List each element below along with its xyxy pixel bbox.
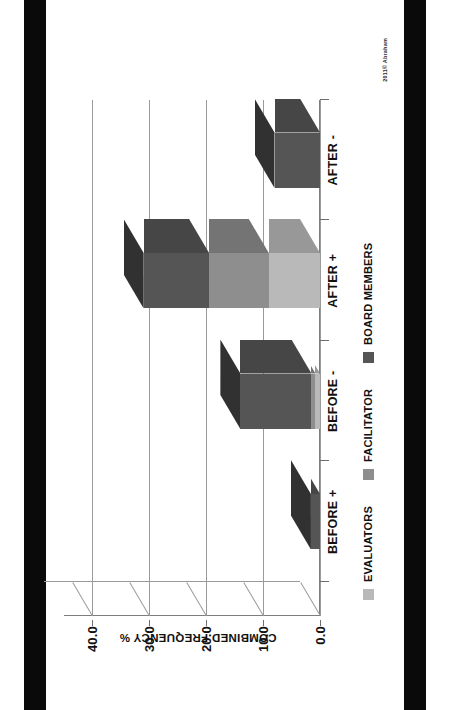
legend-item-evaluators[interactable]: EVALUATORS <box>362 506 374 600</box>
gridline <box>149 100 150 616</box>
bar-face-top <box>255 99 275 188</box>
legend-item-board-members[interactable]: BOARD MEMBERS <box>362 243 374 363</box>
value-tick-mark <box>206 620 207 626</box>
bar-after[interactable] <box>275 133 321 188</box>
bar-face-top <box>291 460 311 549</box>
category-label-before: BEFORE - <box>326 371 340 432</box>
legend-item-facilitator[interactable]: FACILITATOR <box>362 389 374 480</box>
bar-face-front <box>311 374 315 429</box>
legend-label: EVALUATORS <box>362 506 374 582</box>
value-tick-mark <box>320 620 321 626</box>
bar-segment-board-members[interactable] <box>240 374 311 429</box>
gridline-depth <box>186 582 207 616</box>
gridline <box>320 100 321 616</box>
value-tick-mark <box>149 620 150 626</box>
bar-face-front <box>269 253 320 308</box>
scan-band-left <box>24 0 46 710</box>
bar-segment-facilitator[interactable] <box>209 253 269 308</box>
bar-face-front <box>240 374 311 429</box>
legend-swatch-icon <box>363 352 374 363</box>
bar-segment-board-members[interactable] <box>311 494 320 549</box>
scanned-page: 0.010.020.030.040.0 COMBINED FREQUENCY %… <box>0 0 450 710</box>
bar-face-side <box>240 340 311 374</box>
bar-face-top <box>220 340 240 429</box>
scan-band-right <box>404 0 426 710</box>
bar-face-front <box>311 494 320 549</box>
gridline-depth <box>129 582 150 616</box>
value-tick-label: 0.0 <box>314 626 327 645</box>
bar-face-top <box>124 219 144 308</box>
value-axis: 0.010.020.030.040.0 <box>64 620 320 686</box>
bar-segment-board-members[interactable] <box>275 133 321 188</box>
value-tick-mark <box>92 620 93 626</box>
bar-face-side <box>144 219 209 253</box>
category-label-before: BEFORE + <box>326 490 340 554</box>
legend-swatch-icon <box>363 589 374 600</box>
value-tick-label: 40.0 <box>86 626 99 652</box>
bar-segment-board-members[interactable] <box>144 253 209 308</box>
category-axis-labels: BEFORE +BEFORE -AFTER +AFTER - <box>326 100 348 616</box>
gridline <box>92 100 93 616</box>
bar-face-side <box>275 99 321 133</box>
bar-face-front <box>144 253 209 308</box>
back-wall-axis <box>44 581 300 582</box>
bar-after[interactable] <box>144 253 320 308</box>
value-tick-mark <box>263 620 264 626</box>
value-axis-title: COMBINED FREQUENCY % <box>98 632 298 644</box>
gridline-depth <box>300 582 321 616</box>
bar-face-front <box>275 133 321 188</box>
bar-face-front <box>209 253 269 308</box>
legend-label: FACILITATOR <box>362 389 374 462</box>
bar-segment-evaluators[interactable] <box>315 374 320 429</box>
chart-slide: 0.010.020.030.040.0 COMBINED FREQUENCY %… <box>46 24 404 686</box>
bar-before[interactable] <box>240 374 320 429</box>
legend-swatch-icon <box>363 469 374 480</box>
plot-area <box>64 100 320 616</box>
watermark: 2011© Abraham <box>382 38 388 82</box>
category-label-after: AFTER - <box>326 135 340 186</box>
gridline-depth <box>243 582 264 616</box>
legend-label: BOARD MEMBERS <box>362 243 374 345</box>
bar-segment-facilitator[interactable] <box>311 374 315 429</box>
gridline <box>206 100 207 616</box>
bar-face-front <box>315 374 320 429</box>
bar-segment-evaluators[interactable] <box>269 253 320 308</box>
bar-face-side <box>209 219 269 253</box>
gridline-depth <box>73 582 94 616</box>
bar-before[interactable] <box>311 494 320 549</box>
chart-legend: EVALUATORSFACILITATORBOARD MEMBERS <box>358 130 378 600</box>
category-label-after: AFTER + <box>326 254 340 308</box>
bar-face-side <box>269 219 320 253</box>
value-axis-line <box>64 615 320 616</box>
